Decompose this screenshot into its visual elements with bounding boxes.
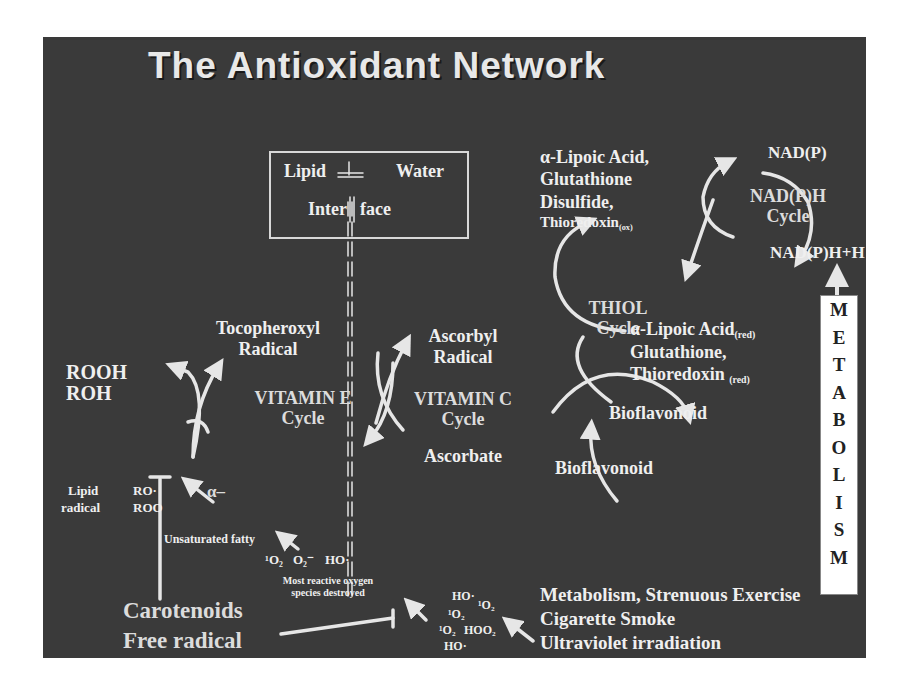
ros-cluster-item: HOO₂ xyxy=(464,624,496,636)
nadph-h-label: NAD(P)H+H xyxy=(770,244,865,261)
vitamin-c-cycle-label: VITAMIN C xyxy=(403,390,523,408)
disulfide-label: Disulfide, xyxy=(540,193,614,211)
ros-destroyed-caption-line1: Most reactive oxygen xyxy=(268,576,388,586)
interface-face-label: face xyxy=(360,200,391,218)
ros-cluster-item: ¹O₂ xyxy=(478,599,495,611)
roh-label: ROH xyxy=(66,383,112,403)
ros-cluster-item: ¹O₂ xyxy=(439,624,456,636)
carotenoids-label: Carotenoids xyxy=(123,599,243,622)
interface-water-label: Water xyxy=(396,162,444,180)
tocopheroxyl-radical-line1: Tocopheroxyl xyxy=(208,319,328,337)
source-metabolism-exercise: Metabolism, Strenuous Exercise xyxy=(540,585,801,604)
lipid-radical-line1: Lipid xyxy=(68,484,98,497)
interface-lipid-label: Lipid xyxy=(284,162,326,180)
thioredoxin-red-label: Thioredoxin (red) xyxy=(630,365,750,385)
rooh-label: ROOH xyxy=(66,362,127,382)
ros-cluster-item: HO· xyxy=(444,640,467,652)
glutathione-ox-label: Glutathione xyxy=(540,170,632,188)
ros-cluster-item: HO· xyxy=(452,590,475,602)
vitamin-e-cycle-sub: Cycle xyxy=(248,409,358,427)
ascorbyl-radical-line1: Ascorbyl xyxy=(413,327,513,345)
ro-radical-label: RO· xyxy=(133,484,157,497)
unsaturated-fatty-label: Unsaturated fatty xyxy=(164,533,255,545)
hydroxyl-label: HO· xyxy=(325,553,350,566)
metabolism-box: M E T A B O L I S M xyxy=(820,295,858,595)
ros-destroyed-caption-line2: species destroyed xyxy=(268,588,388,598)
alpha-tocopherol-label: α– xyxy=(207,483,225,500)
ros-cluster-item: ¹O₂ xyxy=(448,608,465,620)
nadph-cycle-label: NAD(P)H xyxy=(743,187,833,205)
tocopheroxyl-radical-line2: Radical xyxy=(208,340,328,358)
singlet-oxygen-label: ¹O₂ xyxy=(265,553,283,566)
vitamin-c-cycle-sub: Cycle xyxy=(403,410,523,428)
lipid-radical-line2: radical xyxy=(61,501,100,514)
ascorbate-label: Ascorbate xyxy=(403,447,523,465)
ascorbyl-radical-line2: Radical xyxy=(413,348,513,366)
thioredoxin-ox-label: Thioredoxin(ox) xyxy=(540,215,633,232)
free-radical-label: Free radical xyxy=(123,629,242,652)
superoxide-label: O₂⁻ xyxy=(293,553,314,566)
vitamin-e-cycle-label: VITAMIN E xyxy=(248,389,358,407)
roo-radical-label: ROO xyxy=(133,501,163,514)
interface-inter-label: Inter xyxy=(308,200,347,218)
nadph-cycle-sub: Cycle xyxy=(743,207,833,225)
bioflavonoid-bottom-label: Bioflavonoid xyxy=(555,459,653,477)
thiol-cycle-label: THIOL xyxy=(583,299,653,317)
bioflavonoid-right-label: Bioflavonoid xyxy=(609,404,707,422)
slide: The Antioxidant Network xyxy=(43,37,866,658)
lipoic-acid-ox-label: α-Lipoic Acid, xyxy=(540,148,649,166)
source-uv-irradiation: Ultraviolet irradiation xyxy=(540,633,721,652)
nadp-label: NAD(P) xyxy=(768,144,827,161)
source-cigarette-smoke: Cigarette Smoke xyxy=(540,609,675,628)
lipoic-acid-red-label: α-Lipoic Acid(red) xyxy=(630,320,755,340)
glutathione-red-label: Glutathione, xyxy=(630,343,727,361)
